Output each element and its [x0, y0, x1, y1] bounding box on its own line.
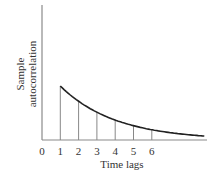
x-tick-5: 5: [131, 145, 137, 157]
y-axis-label-line-1: Sample: [14, 57, 26, 90]
x-tick-4: 4: [112, 145, 118, 157]
x-tick-1: 1: [58, 145, 64, 157]
x-axis-label: Time lags: [100, 158, 143, 170]
x-tick-6: 6: [149, 145, 155, 157]
decay-curve: [60, 86, 204, 136]
stems: [60, 86, 152, 140]
x-tick-3: 3: [94, 145, 100, 157]
y-axis-label-line-2: autocorrelation: [26, 40, 38, 107]
x-tick-0: 0: [39, 145, 45, 157]
x-tick-labels: 0123456: [39, 145, 155, 157]
autocorrelation-chart: 0123456 Time lags Sample autocorrelation: [0, 0, 219, 188]
x-tick-2: 2: [76, 145, 82, 157]
